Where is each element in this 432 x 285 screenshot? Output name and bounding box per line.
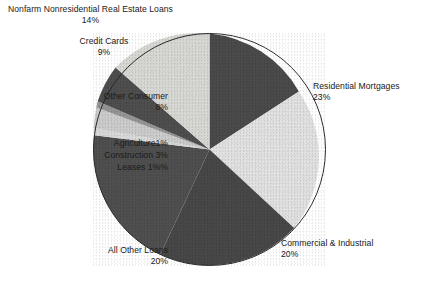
slice-label-all-other-loans: All Other Loans 20%: [40, 245, 168, 268]
slice-label-nonfarm: Nonfarm Nonresidential Real Estate Loans…: [8, 4, 173, 27]
slice-label-construction: Construction 3%: [6, 150, 168, 161]
slice-label-residential-mortgages-pct: 23%: [313, 92, 400, 103]
slice-label-other-consumer-pct: 8%: [6, 102, 168, 113]
slice-label-nonfarm-pct: 14%: [8, 15, 173, 26]
slice-label-commercial-industrial-name: Commercial & Industrial: [281, 238, 373, 248]
slice-label-credit-cards-pct: 9%: [40, 47, 168, 58]
slice-label-credit-cards: Credit Cards 9%: [40, 36, 168, 59]
slice-label-nonfarm-name: Nonfarm Nonresidential Real Estate Loans: [8, 4, 173, 14]
slice-label-agriculture: Agriculture1%: [6, 138, 168, 149]
slice-label-all-other-loans-name: All Other Loans: [108, 245, 168, 255]
slice-label-all-other-loans-pct: 20%: [40, 256, 168, 267]
pie-chart-figure: Nonfarm Nonresidential Real Estate Loans…: [0, 0, 432, 285]
slice-label-residential-mortgages-name: Residential Mortgages: [313, 81, 400, 91]
slice-label-commercial-industrial: Commercial & Industrial 20%: [281, 238, 373, 261]
slice-label-leases: Leases 1%%: [6, 162, 168, 173]
slice-label-commercial-industrial-pct: 20%: [281, 249, 373, 260]
slice-label-other-consumer: Other Consumer 8%: [6, 91, 168, 114]
slice-label-credit-cards-name: Credit Cards: [80, 36, 129, 46]
slice-label-other-consumer-name: Other Consumer: [104, 91, 168, 101]
slice-label-residential-mortgages: Residential Mortgages 23%: [313, 81, 400, 104]
